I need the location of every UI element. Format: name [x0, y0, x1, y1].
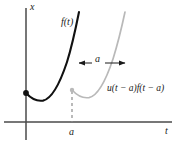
shift-amount-label: a — [95, 54, 100, 64]
original-curve-label: f(t) — [61, 17, 73, 27]
horizontal-axis-label: t — [165, 126, 168, 136]
origin-dot — [23, 90, 29, 96]
shifted-curve-label: u(t − a)f(t − a) — [107, 84, 164, 94]
shift-start-dot — [70, 88, 74, 92]
diagram-canvas — [0, 0, 177, 151]
vertical-axis-label: x — [30, 2, 34, 12]
shifted-function-diagram: x t f(t) a a u(t − a)f(t − a) — [0, 0, 177, 151]
axis-tick-label-a: a — [69, 127, 74, 137]
